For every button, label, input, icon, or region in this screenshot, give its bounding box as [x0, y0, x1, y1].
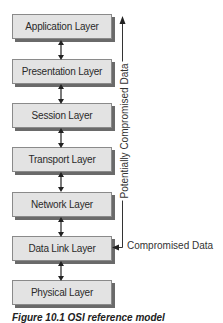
double-arrow-icon — [55, 40, 67, 60]
presentation-layer-box: Presentation Layer — [12, 59, 112, 84]
application-layer-box: Application Layer — [12, 14, 112, 39]
data-link-layer-box: Data Link Layer — [12, 236, 112, 261]
double-arrow-icon — [55, 172, 67, 192]
network-layer-box: Network Layer — [12, 192, 112, 217]
left-arrow-icon — [112, 245, 119, 251]
double-arrow-icon — [55, 217, 67, 237]
double-arrow-icon — [55, 261, 67, 281]
compromised-label: Compromised Data — [127, 240, 213, 251]
physical-layer-box: Physical Layer — [12, 280, 112, 305]
session-layer-box: Session Layer — [12, 103, 112, 128]
figure-caption: Figure 10.1 OSI reference model — [12, 312, 165, 323]
up-arrow-icon — [120, 16, 126, 24]
potentially-compromised-label: Potentially Compromised Data — [119, 61, 130, 200]
double-arrow-icon — [55, 84, 67, 104]
double-arrow-icon — [55, 128, 67, 148]
transport-layer-box: Transport Layer — [12, 147, 112, 172]
